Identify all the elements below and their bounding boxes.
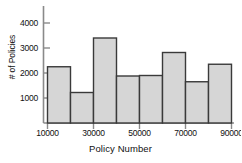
x-tick-label: 90000 [210,128,242,138]
x-axis-title: Policy Number [0,143,241,154]
histogram-figure: # of Policies 4000 3000 2000 1000 [0,0,241,163]
histogram-bar [209,64,232,123]
x-tick-label: 10000 [26,128,70,138]
x-tick-label: 50000 [118,128,162,138]
histogram-bar [71,93,94,124]
histogram-bar [163,53,186,124]
histogram-bars [48,38,232,123]
histogram-bar [94,38,117,123]
x-tick-label: 30000 [72,128,116,138]
x-axis-tick-labels: 10000 30000 50000 70000 90000 [0,128,241,142]
histogram-bar [140,76,163,124]
histogram-bar [117,76,140,123]
histogram-bar [186,82,209,123]
x-tick-label: 70000 [164,128,208,138]
histogram-bar [48,67,71,123]
